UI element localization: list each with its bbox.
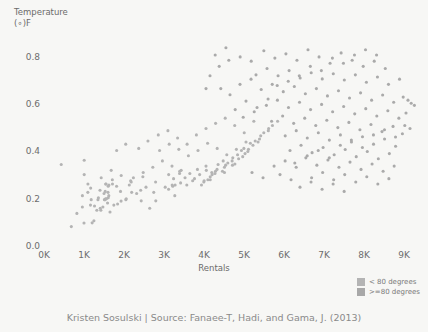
scatter-point <box>387 177 390 180</box>
legend-item[interactable]: < 80 degrees <box>357 278 420 286</box>
scatter-point <box>166 129 169 132</box>
scatter-point <box>342 105 345 108</box>
scatter-point <box>120 174 123 177</box>
x-tick-label: 7K <box>318 250 330 260</box>
scatter-point <box>332 178 335 181</box>
scatter-point <box>198 173 201 176</box>
scatter-point <box>213 172 216 175</box>
scatter-point <box>383 137 386 140</box>
scatter-point <box>393 165 396 168</box>
scatter-point <box>146 140 149 143</box>
scatter-point <box>406 99 409 102</box>
scatter-point <box>371 162 374 165</box>
scatter-point <box>306 154 309 157</box>
scatter-point <box>111 178 114 181</box>
scatter-point <box>401 132 404 135</box>
scatter-point <box>361 146 364 149</box>
scatter-point <box>364 107 367 110</box>
scatter-point <box>223 171 226 174</box>
scatter-point <box>154 199 157 202</box>
scatter-point <box>83 173 86 176</box>
scatter-point <box>125 197 128 200</box>
scatter-point <box>380 130 383 133</box>
scatter-point <box>366 150 369 153</box>
scatter-point <box>104 197 107 200</box>
scatter-point <box>100 176 103 179</box>
scatter-point <box>331 57 334 60</box>
scatter-point <box>362 65 365 68</box>
scatter-point <box>304 92 307 95</box>
scatter-point <box>90 198 93 201</box>
scatter-point <box>203 179 206 182</box>
legend-swatch <box>357 288 365 296</box>
scatter-point <box>267 129 270 132</box>
scatter-point <box>228 93 231 96</box>
scatter-point <box>106 201 109 204</box>
scatter-point <box>116 202 119 205</box>
scatter-point <box>284 52 287 55</box>
x-tick-label: 8K <box>358 250 370 260</box>
scatter-point <box>224 164 227 167</box>
scatter-point <box>82 222 85 225</box>
scatter-point <box>187 154 190 157</box>
scatter-point <box>322 146 325 149</box>
scatter-point <box>284 159 287 162</box>
scatter-point <box>140 199 143 202</box>
scatter-point <box>265 67 268 70</box>
scatter-point <box>206 142 209 145</box>
scatter-point <box>359 168 362 171</box>
scatter-point <box>317 55 320 58</box>
scatter-point <box>309 108 312 111</box>
scatter-point <box>250 171 253 174</box>
scatter-point <box>75 212 78 215</box>
plot-area <box>44 38 420 246</box>
scatter-point <box>167 173 170 176</box>
scatter-point <box>244 100 247 103</box>
scatter-point <box>81 194 84 197</box>
scatter-point <box>342 62 345 65</box>
scatter-point <box>310 71 313 74</box>
scatter-point <box>252 120 255 123</box>
scatter-point <box>369 123 372 126</box>
scatter-point <box>347 121 350 124</box>
scatter-point <box>321 171 324 174</box>
scatter-point <box>204 165 207 168</box>
scatter-point <box>306 136 309 139</box>
scatter-point <box>332 72 335 75</box>
scatter-point <box>144 186 147 189</box>
scatter-point <box>309 65 312 68</box>
scatter-point <box>343 173 346 176</box>
scatter-point <box>326 94 329 97</box>
scatter-point <box>132 176 135 179</box>
scatter-point <box>128 183 131 186</box>
scatter-point <box>364 48 367 51</box>
scatter-point <box>254 73 257 76</box>
scatter-point <box>240 149 243 152</box>
scatter-point <box>89 187 92 190</box>
scatter-point <box>242 147 245 150</box>
x-tick-label: 0K <box>38 250 50 260</box>
scatter-point <box>325 119 328 122</box>
scatter-point <box>353 53 356 56</box>
scatter-point <box>224 117 227 120</box>
scatter-point <box>219 87 222 90</box>
scatter-point <box>164 186 167 189</box>
scatter-point <box>237 157 240 160</box>
scatter-point <box>255 106 258 109</box>
scatter-point <box>413 104 416 107</box>
scatter-point <box>276 120 279 123</box>
scatter-point <box>142 171 145 174</box>
scatter-point <box>115 185 118 188</box>
legend-item[interactable]: >=80 degrees <box>357 288 420 296</box>
x-axis-title: Rentals <box>0 263 428 273</box>
x-axis-tick-labels: 0K1K2K3K4K5K6K7K8K9K <box>0 250 428 264</box>
scatter-point <box>328 139 331 142</box>
scatter-point <box>214 53 217 56</box>
scatter-point <box>239 55 242 58</box>
scatter-point <box>337 166 340 169</box>
scatter-point <box>170 165 173 168</box>
scatter-point <box>386 109 389 112</box>
scatter-point <box>293 161 296 164</box>
scatter-point <box>339 133 342 136</box>
scatter-point <box>205 169 208 172</box>
